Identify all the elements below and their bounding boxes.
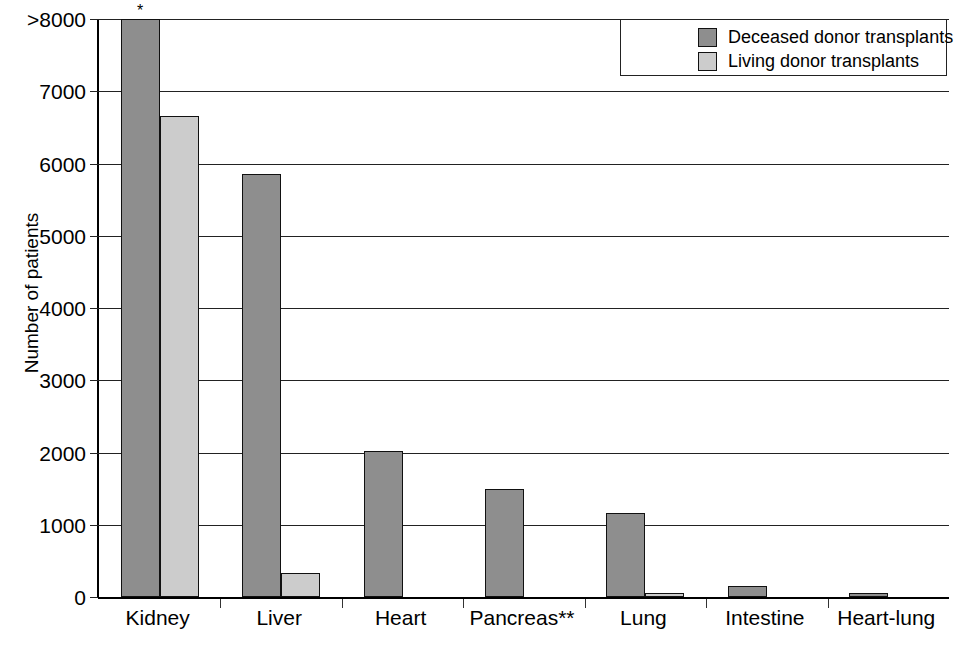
- bar-liver-deceased: [242, 174, 281, 597]
- x-axis-label-kidney: Kidney: [126, 607, 190, 628]
- gridline: [99, 453, 949, 454]
- bar-heart-deceased: [364, 451, 403, 597]
- bar-pancreas-deceased: [485, 489, 524, 597]
- y-axis-tick: [90, 380, 99, 381]
- legend-label-deceased: Deceased donor transplants: [728, 28, 953, 46]
- x-axis-label-heart: Heart: [375, 607, 426, 628]
- legend-swatch-living: [698, 52, 717, 71]
- y-axis-tick: [90, 19, 99, 20]
- y-axis-tick: [90, 164, 99, 165]
- plot-area: 01000200030004000500060007000>8000 *: [97, 19, 949, 597]
- bar-kidney-living: [160, 116, 199, 597]
- y-axis-tick: [90, 91, 99, 92]
- y-axis-tick-label: >8000: [27, 9, 86, 30]
- y-axis-tick: [90, 308, 99, 309]
- gridline: [99, 380, 949, 381]
- x-axis-label-lung: Lung: [620, 607, 667, 628]
- y-axis-tick-label: 0: [74, 587, 86, 608]
- bar-kidney-deceased: [121, 19, 160, 597]
- x-axis-label-heart-lung: Heart-lung: [837, 607, 935, 628]
- y-axis-tick-label: 7000: [39, 81, 86, 102]
- x-axis-line: [98, 597, 949, 599]
- legend: Deceased donor transplants Living donor …: [620, 19, 947, 76]
- y-axis-tick: [90, 453, 99, 454]
- x-axis-label-intestine: Intestine: [725, 607, 804, 628]
- gridline: [99, 525, 949, 526]
- legend-entry-living: Living donor transplants: [698, 50, 919, 72]
- gridline: [99, 164, 949, 165]
- y-axis-tick-label: 6000: [39, 153, 86, 174]
- y-axis-tick: [90, 236, 99, 237]
- legend-swatch-deceased: [698, 28, 717, 47]
- y-axis-tick-label: 1000: [39, 514, 86, 535]
- bar-chart: Number of patients 010002000300040005000…: [0, 0, 956, 652]
- bar-lung-deceased: [606, 513, 645, 597]
- x-axis-label-pancreas: Pancreas**: [469, 607, 574, 628]
- gridline: [99, 91, 949, 92]
- y-axis-tick-label: 2000: [39, 442, 86, 463]
- gridline: [99, 308, 949, 309]
- bar-liver-living: [281, 573, 320, 597]
- y-axis-tick: [90, 525, 99, 526]
- y-axis-tick-label: 3000: [39, 370, 86, 391]
- y-axis-tick-label: 5000: [39, 225, 86, 246]
- bar-asterisk-annotation: *: [137, 3, 143, 19]
- x-axis-label-liver: Liver: [256, 607, 302, 628]
- legend-label-living: Living donor transplants: [728, 52, 919, 70]
- legend-entry-deceased: Deceased donor transplants: [698, 26, 953, 48]
- gridline: [99, 236, 949, 237]
- y-axis-tick-label: 4000: [39, 298, 86, 319]
- bar-intestine-deceased: [728, 586, 767, 597]
